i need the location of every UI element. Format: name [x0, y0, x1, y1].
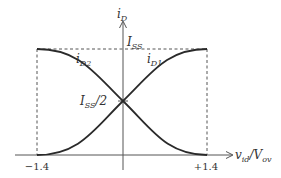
differential-pair-transfer-diagram: iD ISS iD2 iD1 ISS/2 −1.4 +1.4 vid/Vov: [0, 0, 281, 178]
tick-left-label: −1.4: [25, 161, 49, 172]
tick-right-label: +1.4: [194, 161, 218, 172]
iss-half-label: ISS/2: [79, 94, 107, 110]
curve-id1: [37, 49, 207, 155]
x-axis-label: vid/Vov: [235, 148, 272, 164]
id2-label: iD2: [76, 52, 91, 68]
iss-label: ISS: [126, 35, 143, 51]
y-axis-label: iD: [117, 7, 128, 23]
id1-label: iD1: [147, 52, 162, 68]
